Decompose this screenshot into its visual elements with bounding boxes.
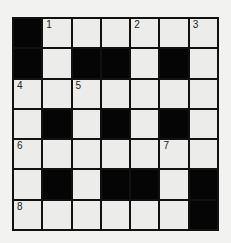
crossword-cell[interactable]: 7 [160, 140, 187, 168]
clue-number: 4 [17, 81, 23, 91]
black-cell [190, 201, 217, 229]
crossword-cell[interactable]: 5 [73, 80, 100, 108]
clue-number: 6 [17, 141, 23, 151]
crossword-cell[interactable] [160, 19, 187, 47]
crossword-cell[interactable] [190, 49, 217, 77]
crossword-cell[interactable] [14, 110, 41, 138]
crossword-cell[interactable] [131, 80, 158, 108]
clue-number: 7 [163, 141, 169, 151]
crossword-cell[interactable] [14, 170, 41, 198]
crossword-cell[interactable] [73, 170, 100, 198]
black-cell [160, 49, 187, 77]
black-cell [102, 49, 129, 77]
clue-number: 3 [193, 20, 199, 30]
black-cell [102, 110, 129, 138]
crossword-grid: 12345678 [12, 17, 219, 231]
crossword-cell[interactable] [73, 140, 100, 168]
crossword-cell[interactable] [102, 19, 129, 47]
crossword-cell[interactable] [160, 80, 187, 108]
crossword-cell[interactable] [73, 19, 100, 47]
crossword-cell[interactable] [160, 201, 187, 229]
crossword-cell[interactable] [131, 110, 158, 138]
black-cell [160, 110, 187, 138]
crossword-cell[interactable]: 4 [14, 80, 41, 108]
crossword-cell[interactable] [102, 80, 129, 108]
crossword-cell[interactable] [190, 140, 217, 168]
crossword-cell[interactable] [73, 201, 100, 229]
clue-number: 2 [134, 20, 140, 30]
black-cell [43, 170, 70, 198]
clue-number: 1 [46, 20, 52, 30]
clue-number: 5 [76, 81, 82, 91]
crossword-cell[interactable] [160, 170, 187, 198]
crossword-cell[interactable] [131, 140, 158, 168]
black-cell [14, 49, 41, 77]
crossword-cell[interactable] [43, 80, 70, 108]
crossword-cell[interactable] [43, 140, 70, 168]
crossword-cell[interactable] [43, 201, 70, 229]
crossword-cell[interactable] [43, 49, 70, 77]
crossword-cell[interactable]: 8 [14, 201, 41, 229]
crossword-cell[interactable] [102, 140, 129, 168]
crossword-cell[interactable] [190, 110, 217, 138]
crossword-cell[interactable] [131, 201, 158, 229]
black-cell [102, 170, 129, 198]
crossword-cell[interactable] [73, 110, 100, 138]
black-cell [43, 110, 70, 138]
black-cell [131, 170, 158, 198]
crossword-cell[interactable] [131, 49, 158, 77]
clue-number: 8 [17, 202, 23, 212]
crossword-cell[interactable]: 2 [131, 19, 158, 47]
crossword-cell[interactable] [102, 201, 129, 229]
black-cell [14, 19, 41, 47]
black-cell [73, 49, 100, 77]
crossword-cell[interactable]: 1 [43, 19, 70, 47]
crossword-cell[interactable] [190, 80, 217, 108]
crossword-cell[interactable]: 3 [190, 19, 217, 47]
crossword-cell[interactable]: 6 [14, 140, 41, 168]
black-cell [190, 170, 217, 198]
